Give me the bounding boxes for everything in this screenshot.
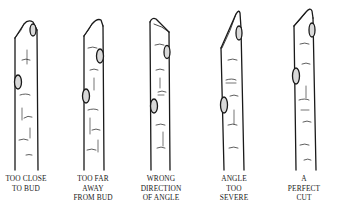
stem-too-far <box>83 20 105 171</box>
bud-icon <box>30 24 36 36</box>
label-wrong-direction: WRONG DIRECTION OF ANGLE <box>127 174 195 203</box>
stem-perfect <box>293 9 317 170</box>
bud-icon <box>164 46 170 59</box>
label-perfect: A PERFECT CUT <box>270 174 338 203</box>
label-too-close: TOO CLOSE TO BUD <box>0 174 60 193</box>
stem-wrong-direction <box>150 18 170 170</box>
stem-too-severe <box>221 11 245 170</box>
label-too-severe: ANGLE TOO SEVERE <box>200 174 268 203</box>
bud-icon <box>293 68 300 84</box>
label-too-far: TOO FAR AWAY FROM BUD <box>59 174 127 203</box>
stem-too-close <box>15 21 39 170</box>
bud-icon <box>83 89 90 103</box>
bud-icon <box>236 26 242 40</box>
pruning-cuts-diagram: TOO CLOSE TO BUD TOO FAR AWAY FROM BUD W… <box>0 0 339 209</box>
bud-icon <box>309 23 315 37</box>
bud-icon <box>151 99 158 113</box>
bud-icon <box>15 75 22 89</box>
bud-icon <box>221 97 228 113</box>
bud-icon <box>97 49 104 63</box>
